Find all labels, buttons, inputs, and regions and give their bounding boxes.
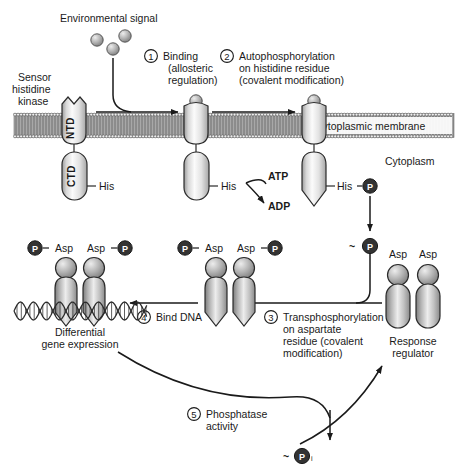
phosphate-badge-left-1: P <box>28 241 42 255</box>
asp-label-rr-right: Asp <box>419 248 437 260</box>
asp-label-left-1: Asp <box>55 242 73 254</box>
svg-text:P: P <box>182 244 188 254</box>
asp-label-mid-right: Asp <box>237 242 255 254</box>
step-3-number: 3 <box>268 312 273 323</box>
svg-text:(covalent modification): (covalent modification) <box>239 74 344 86</box>
signal-path-line <box>113 58 131 112</box>
ctd-label: CTD <box>66 165 77 187</box>
svg-text:P: P <box>272 244 278 254</box>
svg-text:Sensor: Sensor <box>18 71 52 83</box>
step-5-number: 5 <box>191 409 196 420</box>
dna-double-helix <box>14 302 147 320</box>
svg-text:on histidine residue: on histidine residue <box>239 62 330 74</box>
pi-subscript: i <box>311 455 313 462</box>
phosphate-badge-left-2: P <box>118 241 132 255</box>
inorganic-phosphate: ~ P i <box>283 448 313 463</box>
svg-text:gene expression: gene expression <box>41 338 118 350</box>
his-label-3: His <box>337 180 352 192</box>
svg-text:P: P <box>367 182 373 192</box>
transphosphorylation-path <box>356 254 370 303</box>
step-1-number: 1 <box>148 51 153 62</box>
response-regulator-unphosphorylated: Asp Asp Response regulator <box>386 248 440 359</box>
step-2: 2 Autophosphorylation on histidine resid… <box>221 50 344 86</box>
svg-text:Transphosphorylation: Transphosphorylation <box>283 311 384 323</box>
svg-text:on aspartate: on aspartate <box>283 323 342 335</box>
svg-text:histidine: histidine <box>12 83 51 95</box>
svg-text:~: ~ <box>349 240 355 252</box>
phosphate-on-his: P <box>363 179 377 193</box>
step-5: 5 Phosphatase activity <box>188 408 268 432</box>
cytoplasmic-membrane-label: Cytoplasmic membrane <box>315 120 425 132</box>
svg-text:regulation): regulation) <box>168 74 218 86</box>
svg-text:modification): modification) <box>283 347 343 359</box>
step-2-number: 2 <box>224 51 229 62</box>
svg-text:P: P <box>299 452 305 462</box>
arrow-recycle-regulator <box>300 366 382 444</box>
pathway-diagram: Cytoplasmic membrane Cytoplasm Environme… <box>0 0 468 473</box>
step-1: 1 Binding (allosteric regulation) <box>145 50 218 86</box>
atp-adp-reaction: ATP ADP <box>246 170 290 212</box>
asp-label-left-2: Asp <box>87 242 105 254</box>
svg-text:P: P <box>122 244 128 254</box>
svg-text:Response: Response <box>389 335 436 347</box>
svg-text:~: ~ <box>283 450 289 462</box>
step-3: 3 Transphosphorylation on aspartate resi… <box>265 311 384 359</box>
cytoplasm-label: Cytoplasm <box>385 155 435 167</box>
svg-text:P: P <box>367 242 373 252</box>
adp-label: ADP <box>268 200 290 212</box>
svg-text:Bind DNA: Bind DNA <box>156 311 202 323</box>
svg-text:(allosteric: (allosteric <box>168 62 213 74</box>
svg-text:Phosphatase: Phosphatase <box>206 408 267 420</box>
step-4: 4 Bind DNA <box>138 311 203 324</box>
svg-text:regulator: regulator <box>392 347 434 359</box>
svg-text:Binding: Binding <box>163 50 198 62</box>
environmental-signal-label: Environmental signal <box>60 12 157 24</box>
atp-label: ATP <box>268 170 288 182</box>
phosphate-badge-mid-right: P <box>268 241 282 255</box>
asp-label-mid-left: Asp <box>205 242 223 254</box>
svg-text:Autophosphorylation: Autophosphorylation <box>239 50 335 62</box>
environmental-signal-molecules <box>91 30 131 55</box>
svg-text:kinase: kinase <box>18 95 49 107</box>
phosphoryl-intermediate: ~ P <box>349 238 378 253</box>
his-label-2: His <box>221 180 236 192</box>
sensor-kinase-signal-bound: His <box>184 95 236 200</box>
svg-text:activity: activity <box>206 420 239 432</box>
svg-text:Differential: Differential <box>55 326 105 338</box>
his-label-1: His <box>99 180 114 192</box>
svg-text:P: P <box>32 244 38 254</box>
ntd-label: NTD <box>65 117 76 139</box>
sensor-histidine-kinase-label: Sensor histidine kinase <box>12 71 52 107</box>
differential-gene-expression-label: Differential gene expression <box>41 326 118 350</box>
svg-text:residue (covalent: residue (covalent <box>283 335 363 347</box>
phosphate-badge-mid-left: P <box>178 241 192 255</box>
sensor-kinase-phosphorylated: His P <box>302 95 377 206</box>
asp-label-rr-left: Asp <box>389 248 407 260</box>
